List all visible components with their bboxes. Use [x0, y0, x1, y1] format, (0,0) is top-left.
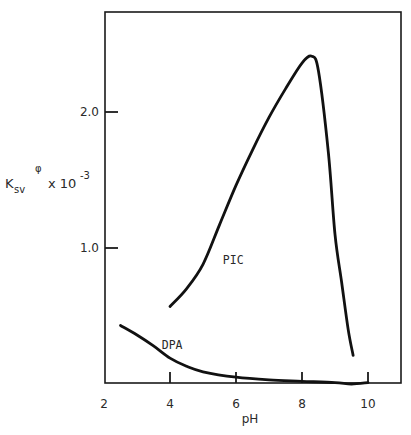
chart-canvas: 1.02.0 246810 PICDPA pH K sv φ x 10 -3 — [0, 0, 411, 435]
x-axis-label: pH — [242, 412, 259, 426]
x-tick-label: 2 — [100, 397, 108, 411]
curve-label-dpa: DPA — [162, 338, 183, 352]
x-tick-label: 10 — [360, 397, 375, 411]
y-axis-label-exponent: -3 — [80, 170, 90, 181]
y-axis-label-multiplier: x 10 — [48, 176, 76, 191]
curve-dpa — [121, 326, 369, 384]
y-axis-label-superscript: φ — [35, 163, 42, 174]
y-axis-label-base: K — [5, 176, 14, 191]
x-tick-label: 4 — [166, 397, 174, 411]
plot-frame — [105, 12, 401, 383]
data-curves — [121, 56, 369, 384]
y-axis-label: K sv φ x 10 -3 — [5, 163, 90, 195]
curve-label-pic: PIC — [223, 253, 244, 267]
y-tick-label: 2.0 — [80, 105, 99, 119]
y-tick-label: 1.0 — [80, 241, 99, 255]
x-tick-label: 6 — [232, 397, 240, 411]
x-tick-label: 8 — [298, 397, 306, 411]
plot-border — [105, 12, 401, 383]
curve-pic — [170, 56, 353, 356]
y-axis-label-subscript: sv — [14, 184, 25, 195]
